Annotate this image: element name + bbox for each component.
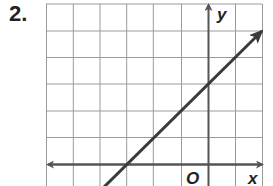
y-axis-label: y (216, 5, 228, 24)
grid-lines (46, 4, 263, 186)
x-axis-label: x (247, 169, 259, 186)
origin-label: O (186, 169, 199, 186)
coordinate-graph: y x O (0, 0, 273, 186)
